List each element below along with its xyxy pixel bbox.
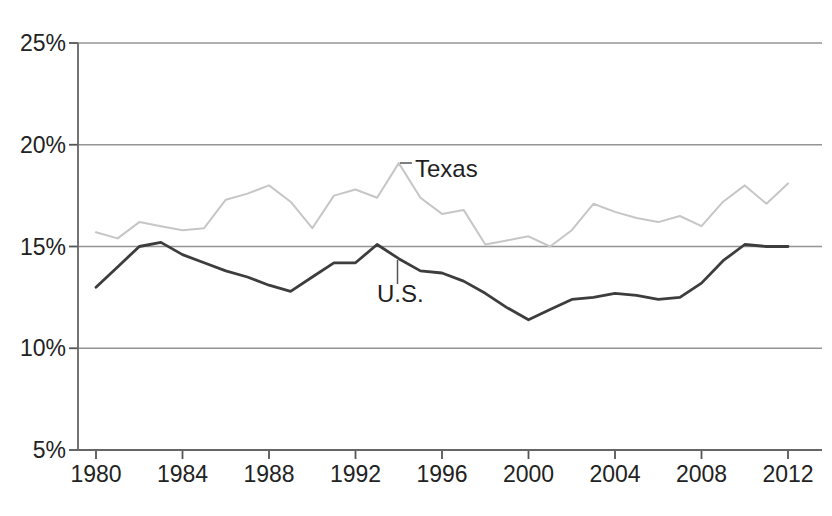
x-tick-label: 1984 [157, 461, 208, 487]
y-tick-label: 25% [20, 30, 66, 56]
y-tick-label: 10% [20, 335, 66, 361]
x-axis-ticks [96, 450, 788, 459]
line-chart: 5%10%15%20%25% 1980198419881992199620002… [0, 0, 832, 516]
y-axis-labels: 5%10%15%20%25% [20, 30, 66, 463]
us-series-label: U.S. [377, 280, 424, 307]
chart-figure: 5%10%15%20%25% 1980198419881992199620002… [0, 0, 832, 516]
series-lines [96, 163, 788, 320]
y-axis-ticks [69, 43, 78, 450]
y-tick-label: 5% [33, 437, 66, 463]
texas-series-label: Texas [415, 155, 478, 182]
x-tick-label: 1996 [416, 461, 467, 487]
x-tick-label: 2008 [676, 461, 727, 487]
x-axis-labels: 198019841988199219962000200420082012 [70, 461, 813, 487]
gridlines [78, 43, 822, 348]
x-tick-label: 2000 [503, 461, 554, 487]
x-tick-label: 1980 [70, 461, 121, 487]
x-tick-label: 1992 [330, 461, 381, 487]
y-tick-label: 20% [20, 132, 66, 158]
x-tick-label: 1988 [243, 461, 294, 487]
x-tick-label: 2004 [589, 461, 640, 487]
series-line-us [96, 242, 788, 319]
x-tick-label: 2012 [762, 461, 813, 487]
y-tick-label: 15% [20, 234, 66, 260]
